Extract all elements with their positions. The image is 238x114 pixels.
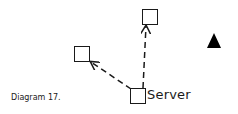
diagram-canvas: Server Diagram 17. bbox=[0, 0, 238, 114]
node-top bbox=[142, 9, 158, 25]
node-left bbox=[74, 46, 90, 62]
server-label: Server bbox=[147, 87, 191, 102]
edge-server-to-top bbox=[143, 26, 146, 88]
diagram-caption: Diagram 17. bbox=[11, 93, 61, 102]
triangle-icon bbox=[207, 33, 221, 48]
edge-server-to-left bbox=[91, 62, 131, 89]
node-server bbox=[130, 88, 146, 104]
